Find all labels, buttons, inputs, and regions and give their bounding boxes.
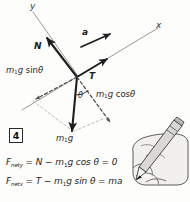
eq-y-rhs-tail: g cos θ = 0 [67,157,117,167]
eq-x-rhs-tail: g sin θ = ma [66,176,122,186]
eq-x-rhs: = T − m [23,176,63,186]
axis-label-y: y [30,2,35,11]
figure-canvas: y x N T a m1g sinθ m1g cosθ θ m1g 4 Fnet… [0,0,190,202]
hand-holding-pencil-illustration [0,0,190,202]
vector-label-tension: T [89,72,95,81]
equation-net-force-y: Fnety = N − m1g cos θ = 0 [6,157,117,168]
component-parallel-g: g [18,65,23,75]
component-parallel-angle: θ [38,65,43,75]
vector-label-acceleration: a [82,28,88,37]
axis-label-x: x [156,21,161,30]
angle-label-theta: θ [78,92,83,100]
component-perp-angle: θ [130,89,135,99]
vector-label-weight: m1g [56,134,73,144]
weight-g: g [68,133,73,143]
component-perp-g: g [108,89,113,99]
eq-y-rhs: = N − m [23,157,64,167]
component-perp-trig: cos [116,89,130,99]
eq-x-sub: net [11,181,20,187]
figure-number-marker: 4 [9,128,23,143]
vector-label-normal-force: N [34,42,42,51]
equation-net-force-x: Fnetx = T − m1g sin θ = ma [6,176,122,187]
component-label-perpendicular: m1g cosθ [96,90,135,100]
component-parallel-trig: sin [26,65,38,75]
eq-y-sub: net [11,162,20,168]
component-label-parallel: m1g sinθ [6,66,43,76]
